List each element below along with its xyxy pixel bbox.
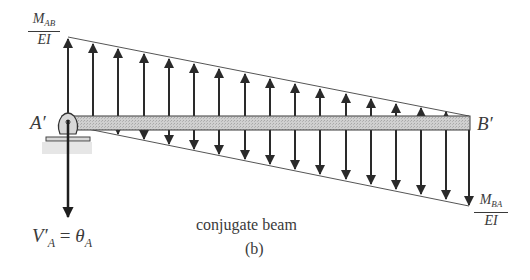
figure-sublabel: (b) <box>245 240 264 258</box>
right-end-label: B′ <box>477 113 493 135</box>
right-moment-label: MBA EI <box>474 192 508 229</box>
top-load-envelope <box>68 37 469 116</box>
downward-load-arrows <box>118 130 469 205</box>
bottom-load-envelope <box>68 125 469 206</box>
upward-load-arrows <box>68 39 446 116</box>
reaction-label: V′A = θA <box>32 225 92 251</box>
figure-caption: conjugate beam <box>196 216 297 234</box>
beam <box>62 116 470 130</box>
left-end-label: A′ <box>30 112 46 134</box>
left-moment-label: MAB EI <box>28 11 60 48</box>
